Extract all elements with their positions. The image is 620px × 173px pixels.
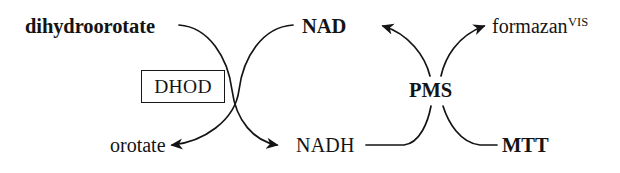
node-mtt: MTT <box>502 135 549 156</box>
node-dihydroorotate: dihydroorotate <box>25 16 155 37</box>
edge-mtt-inflow <box>443 106 497 145</box>
edge-nadh-inflow <box>366 106 431 145</box>
enzyme-box-dhod: DHOD <box>141 70 225 103</box>
pathway-diagram: dihydroorotate NAD formazanVIS DHOD PMS … <box>0 0 620 173</box>
node-nad: NAD <box>302 16 346 37</box>
node-pms: PMS <box>409 80 452 101</box>
node-formazan-text: formazan <box>492 15 568 37</box>
node-formazan-superscript: VIS <box>568 15 588 29</box>
node-orotate: orotate <box>110 135 166 155</box>
enzyme-label-dhod: DHOD <box>142 71 224 102</box>
edge-nadh-to-formazan <box>441 26 484 76</box>
edge-mtt-to-nad <box>383 26 430 76</box>
node-nadh: NADH <box>296 135 355 155</box>
node-formazan: formazanVIS <box>492 16 588 36</box>
